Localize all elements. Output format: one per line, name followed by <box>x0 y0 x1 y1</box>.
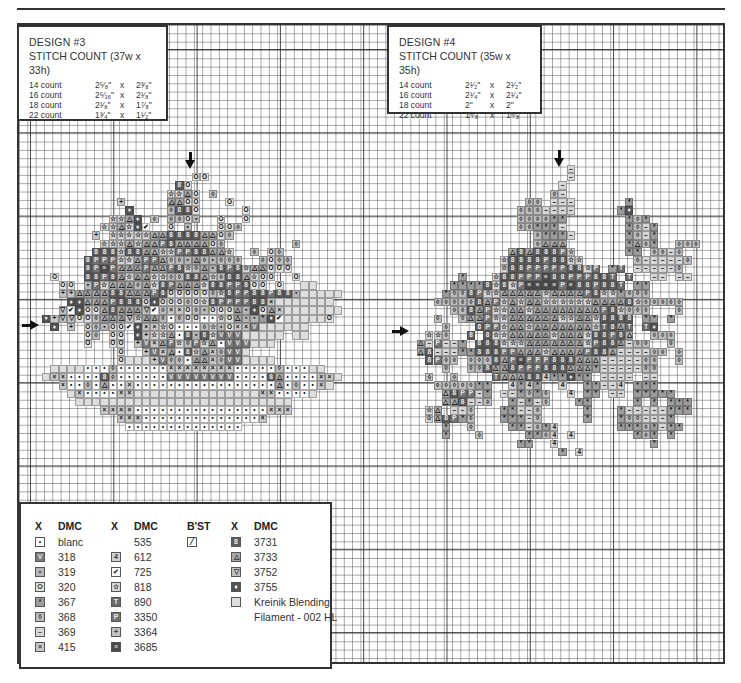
color-swatch-icon: O <box>35 582 45 592</box>
design-4-size-table: 14 count2¹⁄₂"x2¹⁄₂" 16 count2¹⁄₄"x2¹⁄₄" … <box>399 80 522 120</box>
color-swatch-icon <box>111 537 121 547</box>
size-x: x <box>120 110 136 120</box>
dmc-code: 319 <box>58 566 76 578</box>
size-count: 22 count <box>399 110 465 120</box>
color-swatch-icon: V <box>35 552 45 562</box>
dmc-code: 612 <box>134 551 152 563</box>
design-3-size-table: 14 count2⁵⁄₈"x2³⁄₈" 16 count2⁵⁄₁₆"x2¹⁄₈"… <box>29 80 152 120</box>
dmc-code: 368 <box>58 611 76 623</box>
size-height: 2¹⁄₈" <box>136 90 152 100</box>
backstitch-line-icon: ⁄ <box>187 537 197 547</box>
legend-row: ▽3752 <box>231 564 337 579</box>
legend-row: T890 <box>111 594 158 609</box>
legend-row: ♦3755 <box>231 579 337 594</box>
design-3-title: DESIGN #3 <box>29 35 156 49</box>
size-height: 1¹⁄₂" <box>136 110 152 120</box>
color-swatch-icon: ♦ <box>231 582 241 592</box>
legend-header: XDMC <box>111 520 158 534</box>
size-count: 14 count <box>399 80 465 90</box>
size-width: 1³⁄₄" <box>95 110 120 120</box>
legend-column-backstitch: B'ST⁄ <box>187 520 211 549</box>
legend-header-dmc: DMC <box>254 520 278 532</box>
legend-header-symbol: X <box>111 520 134 532</box>
size-height: 2¹⁄₄" <box>506 90 522 100</box>
color-key-legend: XDMC•blancV318▪319O320*367◊368–369×415 X… <box>19 502 332 669</box>
dmc-code: 318 <box>58 551 76 563</box>
legend-header-dmc: DMC <box>134 520 158 532</box>
legend-row: 4612 <box>111 549 158 564</box>
size-width: 2¹⁄₈" <box>95 100 120 110</box>
design-4-title: DESIGN #4 <box>399 35 530 49</box>
legend-row: ▪319 <box>35 564 83 579</box>
dmc-code: 818 <box>134 581 152 593</box>
size-x: x <box>120 100 136 110</box>
dmc-code: Kreinik Blending <box>254 596 330 608</box>
legend-row: ✔725 <box>111 564 158 579</box>
design-3-center-arrow-down-icon <box>185 160 195 169</box>
dmc-code: 367 <box>58 596 76 608</box>
color-swatch-icon: + <box>111 627 121 637</box>
size-x: x <box>120 80 136 90</box>
legend-row: –369 <box>35 624 83 639</box>
size-width: 2¹⁄₂" <box>465 80 490 90</box>
color-swatch-icon: ≡ <box>111 642 121 652</box>
dmc-code: 320 <box>58 581 76 593</box>
color-swatch-icon: ▽ <box>231 567 241 577</box>
design-3-stitch-count: STITCH COUNT (37w x 33h) <box>29 49 156 77</box>
legend-column-3: XDMC83731△3733▽3752♦3755Kreinik Blending… <box>231 520 337 624</box>
size-height: 2" <box>506 100 522 110</box>
top-rule <box>17 8 725 10</box>
color-swatch-icon: • <box>35 537 45 547</box>
dmc-code: 3364 <box>134 626 157 638</box>
color-swatch-icon: ▪ <box>35 567 45 577</box>
design-4-center-arrow-right-icon <box>400 326 409 336</box>
color-swatch-icon: P <box>111 612 121 622</box>
legend-header-symbol: X <box>35 520 58 532</box>
dmc-code: 369 <box>58 626 76 638</box>
dmc-code: 3733 <box>254 551 277 563</box>
color-swatch-icon: – <box>35 627 45 637</box>
dmc-code: 3755 <box>254 581 277 593</box>
legend-row: ≡3685 <box>111 639 158 654</box>
color-swatch-icon: △ <box>231 552 241 562</box>
design-4-info-box: DESIGN #4 STITCH COUNT (35w x 35h) 14 co… <box>387 25 542 114</box>
design-3-info-box: DESIGN #3 STITCH COUNT (37w x 33h) 14 co… <box>17 25 168 121</box>
legend-row: ×415 <box>35 639 83 654</box>
size-height: 2¹⁄₂" <box>506 80 522 90</box>
legend-row: 535 <box>111 534 158 549</box>
legend-row: •blanc <box>35 534 83 549</box>
size-height: 2³⁄₈" <box>136 80 152 90</box>
size-width: 1⁵⁄₈" <box>465 110 490 120</box>
color-swatch-icon <box>231 597 241 607</box>
size-count: 18 count <box>29 100 95 110</box>
design-4-center-arrow-down-icon <box>554 158 564 167</box>
size-width: 2⁵⁄₁₆" <box>95 90 120 100</box>
legend-row: ☆818 <box>111 579 158 594</box>
dmc-code: 3731 <box>254 536 277 548</box>
size-x: x <box>490 110 506 120</box>
size-x: x <box>490 90 506 100</box>
size-count: 18 count <box>399 100 465 110</box>
size-x: x <box>490 100 506 110</box>
size-width: 2¹⁄₄" <box>465 90 490 100</box>
legend-header-dmc: DMC <box>58 520 82 532</box>
size-height: 1⁵⁄₈" <box>506 110 522 120</box>
design-4-stitch-count: STITCH COUNT (35w x 35h) <box>399 49 530 77</box>
dmc-code: 3685 <box>134 641 157 653</box>
legend-header: XDMC <box>231 520 337 534</box>
legend-row: ◊368 <box>35 609 83 624</box>
legend-header-symbol: B'ST <box>187 520 211 532</box>
color-swatch-icon: ◊ <box>35 612 45 622</box>
size-count: 16 count <box>29 90 95 100</box>
design-3-center-arrow-right-icon <box>30 320 39 330</box>
dmc-code: 3350 <box>134 611 157 623</box>
color-swatch-icon: 4 <box>111 552 121 562</box>
legend-row: Filament - 002 HL <box>231 609 337 624</box>
dmc-code: 535 <box>134 536 152 548</box>
color-swatch-icon: * <box>35 597 45 607</box>
size-width: 2⁵⁄₈" <box>95 80 120 90</box>
size-x: x <box>490 80 506 90</box>
legend-column-1: XDMC•blancV318▪319O320*367◊368–369×415 <box>35 520 83 654</box>
dmc-code: 3752 <box>254 566 277 578</box>
size-count: 16 count <box>399 90 465 100</box>
